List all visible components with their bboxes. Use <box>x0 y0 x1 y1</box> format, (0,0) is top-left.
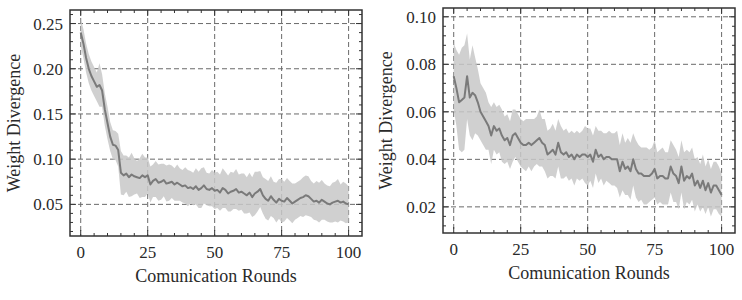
x-tick-label: 75 <box>273 243 290 262</box>
y-tick-label: 0.04 <box>406 150 436 169</box>
y-tick-label: 0.02 <box>406 198 436 217</box>
y-tick-label: 0.10 <box>33 150 63 169</box>
std-band <box>81 19 349 223</box>
x-tick-label: 0 <box>76 243 85 262</box>
figure: 02550751000.050.100.150.200.25Comunicati… <box>0 0 742 300</box>
y-axis-label: Weight Divergence <box>4 54 24 193</box>
x-tick-label: 100 <box>709 240 735 259</box>
y-tick-label: 0.15 <box>33 105 63 124</box>
x-axis-label: Comunication Rounds <box>135 266 297 286</box>
y-tick-label: 0.08 <box>406 55 436 74</box>
y-tick-label: 0.05 <box>33 195 63 214</box>
y-tick-label: 0.06 <box>406 103 436 122</box>
x-tick-label: 25 <box>512 240 529 259</box>
y-tick-label: 0.20 <box>33 60 63 79</box>
x-tick-label: 25 <box>139 243 156 262</box>
x-tick-label: 75 <box>646 240 663 259</box>
y-tick-label: 0.10 <box>406 8 436 27</box>
x-tick-label: 50 <box>206 243 223 262</box>
chart-panel-left: 02550751000.050.100.150.200.25Comunicati… <box>4 10 362 286</box>
chart-panel-right: 02550751000.020.040.060.080.10Comunicati… <box>376 8 735 283</box>
y-tick-label: 0.25 <box>33 15 63 34</box>
x-tick-label: 50 <box>579 240 596 259</box>
y-axis-label: Weight Divergence <box>376 51 396 190</box>
x-axis-label: Comunication Rounds <box>508 263 670 283</box>
x-tick-label: 100 <box>336 243 362 262</box>
x-tick-label: 0 <box>449 240 458 259</box>
